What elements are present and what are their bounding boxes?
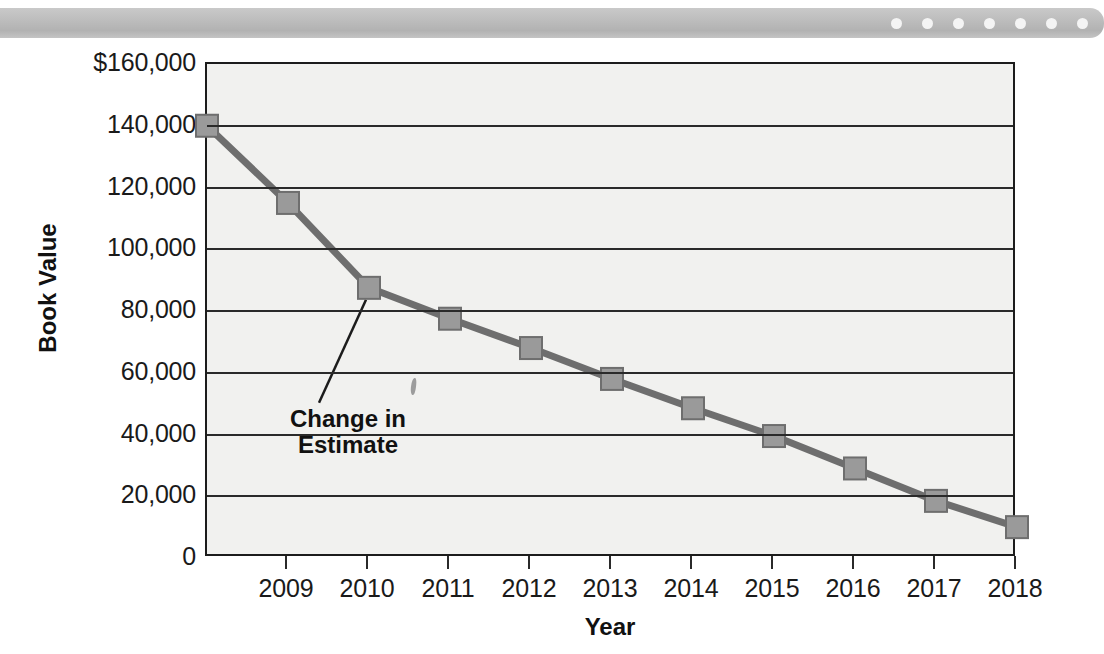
- data-point-marker: [1006, 516, 1028, 538]
- x-axis-tickmark: [1014, 556, 1016, 569]
- y-axis-tick-label: 100,000: [107, 233, 196, 262]
- change-in-estimate-annotation: Change in Estimate: [243, 406, 453, 458]
- x-axis-tick-label: 2009: [259, 574, 314, 603]
- y-axis-tick-label: $160,000: [93, 48, 196, 77]
- x-axis-tickmark: [933, 556, 935, 569]
- gridline: [207, 372, 1013, 374]
- data-point-marker: [844, 457, 866, 479]
- gridline: [207, 495, 1013, 497]
- data-point-marker: [277, 192, 299, 214]
- x-axis-tick-label: 2010: [340, 574, 395, 603]
- banner-dot: [1046, 18, 1057, 29]
- banner-dot: [891, 18, 902, 29]
- y-axis-tick-label: 40,000: [121, 418, 196, 447]
- x-axis-tick-label: 2017: [907, 574, 962, 603]
- x-axis-tick-label: 2015: [745, 574, 800, 603]
- plot-area: [205, 62, 1015, 556]
- x-axis-tickmark: [285, 556, 287, 569]
- annotation-leader-line: [319, 300, 366, 403]
- banner-dot-group: [891, 8, 1088, 38]
- annotation-line-2: Estimate: [243, 432, 453, 458]
- x-axis-tick-labels: 2009201020112012201320142015201620172018: [205, 574, 1015, 608]
- x-axis-tick-label: 2013: [583, 574, 638, 603]
- x-axis-tickmark: [366, 556, 368, 569]
- y-axis-tick-label: 140,000: [107, 109, 196, 138]
- chart-figure: Book Value $160,000140,000120,000100,000…: [0, 38, 1104, 654]
- x-axis-tickmark: [852, 556, 854, 569]
- y-axis-tick-label: 120,000: [107, 171, 196, 200]
- x-axis-tickmark: [447, 556, 449, 569]
- y-axis-tick-label: 60,000: [121, 356, 196, 385]
- data-point-marker: [925, 490, 947, 512]
- decorative-top-banner: [0, 8, 1104, 38]
- x-axis-tickmark: [528, 556, 530, 569]
- gridline: [207, 187, 1013, 189]
- x-axis-tickmark: [771, 556, 773, 569]
- banner-dot: [1077, 18, 1088, 29]
- x-axis-tick-label: 2018: [988, 574, 1043, 603]
- y-axis-tick-label: 0: [182, 542, 196, 571]
- data-point-marker: [682, 397, 704, 419]
- gridline: [207, 248, 1013, 250]
- annotation-line-1: Change in: [243, 406, 453, 432]
- x-axis-tick-label: 2016: [826, 574, 881, 603]
- data-point-marker: [358, 277, 380, 299]
- banner-dot: [953, 18, 964, 29]
- x-axis-tick-label: 2014: [664, 574, 719, 603]
- y-axis-tick-labels: $160,000140,000120,000100,00080,00060,00…: [0, 62, 196, 556]
- banner-dot: [984, 18, 995, 29]
- gridline: [207, 125, 1013, 127]
- x-axis-tickmark: [609, 556, 611, 569]
- x-axis-tickmark: [690, 556, 692, 569]
- x-axis-title: Year: [205, 613, 1015, 641]
- data-point-marker: [520, 337, 542, 359]
- gridline: [207, 310, 1013, 312]
- x-axis-tick-label: 2012: [502, 574, 557, 603]
- x-axis-tickmarks: [205, 556, 1015, 570]
- x-axis-tick-label: 2011: [422, 574, 475, 603]
- banner-dot: [922, 18, 933, 29]
- banner-dot: [1015, 18, 1026, 29]
- y-axis-tick-label: 20,000: [121, 480, 196, 509]
- y-axis-tick-label: 80,000: [121, 295, 196, 324]
- data-point-marker: [763, 425, 785, 447]
